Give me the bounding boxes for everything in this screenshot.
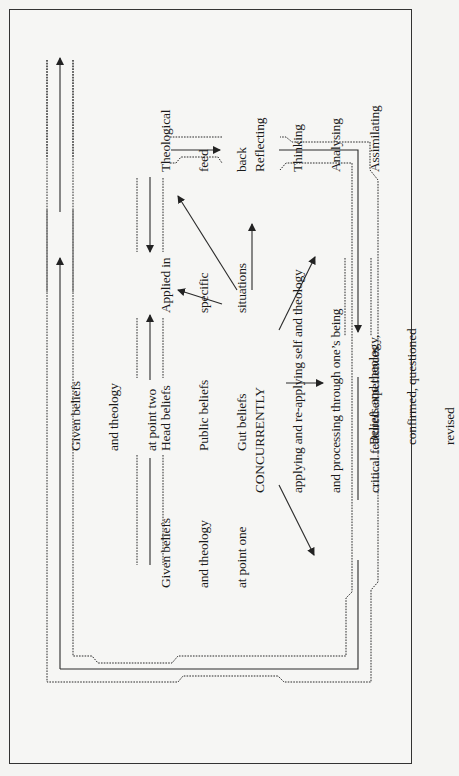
- line: applying and re-applying self and theolo…: [292, 269, 305, 493]
- line: feed: [198, 110, 211, 172]
- line: and theology: [108, 381, 121, 451]
- node-reflecting: Reflecting Thinking Analysing Assimilati…: [228, 105, 394, 172]
- line: Analysing: [330, 105, 343, 172]
- line: specific: [198, 258, 211, 313]
- line: revised: [444, 328, 457, 445]
- line: Given beliefs: [160, 518, 173, 588]
- line: CONCURRENTLY: [254, 269, 267, 493]
- line: Applied in: [160, 258, 173, 313]
- line: and theology: [198, 518, 211, 588]
- line: Theological: [160, 110, 173, 172]
- line: Reflecting: [254, 105, 267, 172]
- line: Assimilating: [369, 105, 382, 172]
- line: Beliefs and theology,: [368, 328, 381, 445]
- node-beliefs-revised: Beliefs and theology, confirmed, questio…: [342, 328, 459, 445]
- line: Given beliefs: [70, 381, 83, 451]
- node-given-point-two: Given beliefs and theology at point two: [44, 381, 172, 451]
- line: at point two: [146, 381, 159, 451]
- node-given-point-one: Given beliefs and theology at point one: [134, 518, 262, 588]
- line: at point one: [236, 518, 249, 588]
- line: Public beliefs: [198, 380, 211, 451]
- arrow-concurrently-down: [279, 485, 314, 555]
- line: confirmed, questioned: [406, 328, 419, 445]
- line: Thinking: [292, 105, 305, 172]
